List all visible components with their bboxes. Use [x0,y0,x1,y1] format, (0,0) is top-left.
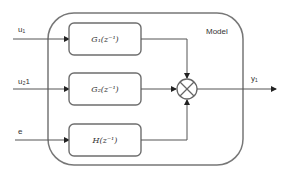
input-label-u1: u₁ [18,25,25,34]
block-g1-label: G₁(z⁻¹) [91,35,118,44]
block-g2-label: G₂(z⁻¹) [91,85,118,94]
input-label-e: e [18,127,23,136]
input-label-u2: u₂1 [18,77,31,86]
wire-h-junction [141,100,187,140]
summing-junction-icon [177,79,197,99]
block-g2: G₂(z⁻¹) [69,73,141,105]
block-diagram: Model u₁ u₂1 e G₁(z⁻¹) G₂(z⁻¹) H(z⁻¹) y₁ [0,0,286,175]
block-h: H(z⁻¹) [69,124,141,156]
output-label-y1: y₁ [251,74,258,83]
block-g1: G₁(z⁻¹) [69,23,141,55]
block-h-label: H(z⁻¹) [92,136,118,145]
wire-g1-junction [141,39,187,78]
model-label: Model [206,27,228,36]
